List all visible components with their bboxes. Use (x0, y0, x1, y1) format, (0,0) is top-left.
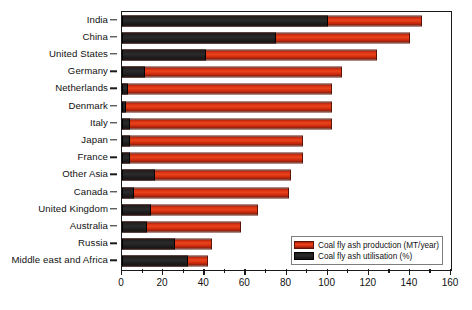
x-axis-tick-label: 100 (318, 277, 335, 288)
y-axis-tick (110, 156, 117, 157)
x-axis: 020406080100120140160 (121, 269, 450, 309)
y-axis-label: Denmark (68, 101, 108, 111)
y-axis-tick (110, 208, 117, 209)
x-axis-tick-major (244, 269, 245, 275)
x-axis-tick-label: 160 (442, 277, 459, 288)
bar-segment-utilisation[interactable] (122, 15, 328, 26)
figure: IndiaChinaUnited StatesGermanyNetherland… (0, 0, 472, 310)
x-axis-tick-minor (183, 269, 184, 273)
y-axis-tick (110, 225, 117, 226)
y-axis-label: Australia (70, 221, 108, 231)
bar-segment-production[interactable] (122, 67, 342, 78)
x-axis-tick-major (409, 269, 410, 275)
x-axis-tick-minor (429, 269, 430, 273)
x-axis-tick-minor (224, 269, 225, 273)
bar-row[interactable] (122, 50, 451, 61)
bar-row[interactable] (122, 84, 451, 95)
legend-label: Coal fly ash utilisation (%) (318, 252, 412, 261)
bar-segment-production[interactable] (122, 101, 332, 112)
bar-row[interactable] (122, 118, 451, 129)
bar-segment-utilisation[interactable] (122, 67, 145, 78)
bar-segment-utilisation[interactable] (122, 204, 151, 215)
legend-item[interactable]: Coal fly ash utilisation (%) (294, 251, 439, 261)
y-axis-tick (110, 19, 117, 20)
x-axis-tick-label: 140 (401, 277, 418, 288)
x-axis-tick-label: 40 (198, 277, 209, 288)
x-axis-tick-minor (306, 269, 307, 273)
bar-row[interactable] (122, 136, 451, 147)
x-axis-tick-minor (265, 269, 266, 273)
bar-row[interactable] (122, 170, 451, 181)
x-axis-tick-minor (347, 269, 348, 273)
x-axis-tick-major (368, 269, 369, 275)
y-axis-label: Other Asia (62, 169, 108, 179)
x-axis-tick-label: 20 (157, 277, 168, 288)
bar-row[interactable] (122, 32, 451, 43)
bar-segment-utilisation[interactable] (122, 136, 130, 147)
y-axis-tick (110, 88, 117, 89)
x-axis-tick-label: 60 (239, 277, 250, 288)
bar-segment-production[interactable] (122, 153, 303, 164)
bar-row[interactable] (122, 222, 451, 233)
legend-swatch (294, 252, 314, 260)
bar-row[interactable] (122, 153, 451, 164)
x-axis-tick-major (121, 269, 122, 275)
bar-segment-production[interactable] (122, 136, 303, 147)
y-axis-label: Russia (78, 238, 108, 248)
bar-segment-production[interactable] (122, 118, 332, 129)
bar-segment-utilisation[interactable] (122, 170, 155, 181)
bar-segment-production[interactable] (122, 84, 332, 95)
y-axis-tick (110, 36, 117, 37)
y-axis-label: France (78, 152, 108, 162)
y-axis-label: Netherlands (55, 83, 108, 93)
y-axis-tick (110, 242, 117, 243)
x-axis-tick-label: 0 (118, 277, 124, 288)
bar-segment-utilisation[interactable] (122, 118, 130, 129)
y-axis-tick (110, 70, 117, 71)
bar-row[interactable] (122, 187, 451, 198)
y-axis-label: United States (49, 49, 108, 59)
y-axis-tick (110, 53, 117, 54)
x-axis-tick-label: 120 (359, 277, 376, 288)
bar-segment-utilisation[interactable] (122, 187, 134, 198)
y-axis-label: Germany (68, 66, 108, 76)
chart-legend[interactable]: Coal fly ash production (MT/year)Coal fl… (291, 236, 443, 265)
y-axis-label: United Kingdom (38, 204, 108, 214)
y-axis-label: Japan (81, 135, 108, 145)
plot-area (121, 11, 452, 271)
x-axis-tick-major (162, 269, 163, 275)
y-axis-label: Middle east and Africa (11, 255, 108, 265)
legend-item[interactable]: Coal fly ash production (MT/year) (294, 240, 439, 250)
x-axis-tick-major (327, 269, 328, 275)
y-axis-tick (110, 174, 117, 175)
x-axis-tick-minor (388, 269, 389, 273)
bar-segment-utilisation[interactable] (122, 50, 206, 61)
bar-segment-utilisation[interactable] (122, 222, 147, 233)
x-axis-tick-minor (142, 269, 143, 273)
y-axis-tick (110, 191, 117, 192)
y-axis-label: China (82, 32, 108, 42)
bar-row[interactable] (122, 101, 451, 112)
y-axis-tick (110, 105, 117, 106)
bar-segment-utilisation[interactable] (122, 84, 128, 95)
bar-row[interactable] (122, 15, 451, 26)
y-axis-label: India (87, 15, 108, 25)
legend-label: Coal fly ash production (MT/year) (318, 241, 439, 250)
bar-segment-utilisation[interactable] (122, 153, 130, 164)
bar-row[interactable] (122, 67, 451, 78)
y-axis-tick (110, 122, 117, 123)
bar-segment-utilisation[interactable] (122, 101, 126, 112)
bar-segment-utilisation[interactable] (122, 239, 175, 250)
y-axis-label: Canada (74, 187, 108, 197)
y-axis-tick (110, 260, 117, 261)
x-axis-tick-major (286, 269, 287, 275)
bar-row[interactable] (122, 204, 451, 215)
legend-swatch (294, 241, 314, 249)
y-axis-tick (110, 139, 117, 140)
y-axis-label: Italy (90, 118, 108, 128)
bar-segment-utilisation[interactable] (122, 256, 188, 267)
bar-segment-production[interactable] (122, 187, 289, 198)
x-axis-tick-major (203, 269, 204, 275)
bar-segment-utilisation[interactable] (122, 32, 276, 43)
x-axis-tick-major (450, 269, 451, 275)
